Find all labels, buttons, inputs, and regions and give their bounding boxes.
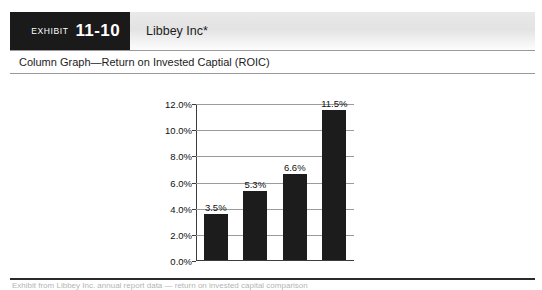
exhibit-company-title: Libbey Inc*: [146, 12, 208, 50]
exhibit-number-tab: EXHIBIT 11-10: [10, 12, 130, 50]
y-axis-tick-label: 8.0%: [170, 151, 192, 162]
y-axis-tick-label: 4.0%: [170, 203, 192, 214]
footnote-text: Exhibit from Libbey Inc. annual report d…: [12, 281, 540, 290]
footnote-divider: [10, 278, 535, 280]
y-axis-tick-label: 12.0%: [165, 99, 192, 110]
exhibit-subtitle-row: Column Graph—Return on Invested Captial …: [10, 50, 535, 74]
exhibit-subtitle: Column Graph—Return on Invested Captial …: [19, 56, 270, 68]
y-axis-tick-label: 2.0%: [170, 229, 192, 240]
x-axis-tick-labels: 2005200820092010: [196, 104, 354, 279]
y-axis-tick-labels: 0.0%2.0%4.0%6.0%8.0%10.0%12.0%: [150, 104, 192, 261]
y-axis-tick-label: 10.0%: [165, 125, 192, 136]
exhibit-header-band: EXHIBIT 11-10 Libbey Inc*: [10, 12, 535, 50]
exhibit-label: EXHIBIT: [31, 26, 68, 36]
chart-area: 0.0%2.0%4.0%6.0%8.0%10.0%12.0% 3.5%5.3%6…: [10, 74, 535, 277]
exhibit-number: 11-10: [75, 21, 120, 41]
y-axis-tick-label: 6.0%: [170, 177, 192, 188]
y-axis-tick-label: 0.0%: [170, 256, 192, 267]
